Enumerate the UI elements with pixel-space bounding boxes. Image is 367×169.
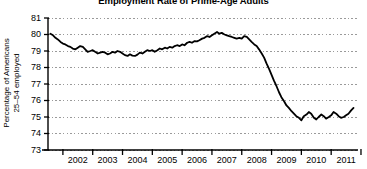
plot-area	[0, 0, 367, 169]
data-series-group	[50, 32, 353, 120]
chart-container: Employment Rate of Prime-Age Adults Perc…	[0, 0, 367, 169]
data-series-line	[50, 32, 353, 120]
